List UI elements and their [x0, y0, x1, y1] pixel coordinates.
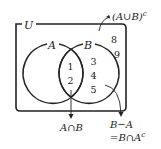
difference-equivalent-label: =B∩Ac: [110, 131, 145, 143]
universe-label: U: [24, 19, 34, 32]
element-4: 4: [91, 70, 97, 81]
intersection-arrow-icon: [69, 90, 74, 119]
complement-union-label: (A∪B)c: [112, 10, 147, 22]
intersection-outline: [59, 49, 83, 97]
element-8: 8: [111, 34, 117, 45]
difference-arrow-icon: [105, 85, 124, 117]
element-9: 9: [114, 49, 120, 60]
element-3: 3: [91, 56, 97, 67]
set-b-label: B: [83, 39, 92, 52]
venn-diagram: U A B 1 2 3 4 5 8 9 (A∪B)c A∩B B−A =B∩Ac: [0, 0, 161, 149]
set-a-label: A: [47, 39, 56, 52]
element-2: 2: [68, 75, 74, 86]
difference-label: B−A: [109, 119, 133, 130]
element-1: 1: [68, 61, 74, 72]
element-5: 5: [91, 84, 97, 95]
intersection-label: A∩B: [59, 122, 83, 133]
complement-union-arrow-icon: [99, 15, 110, 31]
